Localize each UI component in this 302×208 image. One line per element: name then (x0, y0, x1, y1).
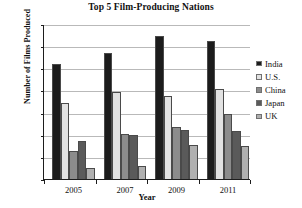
legend-label: Japan (265, 98, 285, 108)
legend-swatch-icon (256, 61, 262, 67)
legend-item-china[interactable]: China (256, 83, 302, 96)
legend-label: U.S. (265, 72, 280, 82)
legend-item-india[interactable]: India (256, 57, 302, 70)
gridline (44, 25, 250, 26)
bar-china-2011 (224, 114, 233, 180)
bar-us-2011 (215, 89, 224, 180)
gridline (44, 69, 250, 70)
legend-swatch-icon (256, 114, 262, 120)
bar-japan-2011 (232, 131, 241, 180)
legend-label: India (265, 59, 283, 69)
gridline (44, 47, 250, 48)
bar-japan-2007 (129, 135, 138, 180)
bar-china-2005 (69, 151, 78, 180)
legend-swatch-icon (256, 100, 262, 106)
bar-uk-2009 (189, 145, 198, 180)
legend-item-uk[interactable]: UK (256, 110, 302, 123)
legend-label: China (265, 85, 286, 95)
bar-china-2007 (121, 134, 130, 180)
y-axis-line (43, 25, 44, 180)
x-axis-title: Year (44, 192, 250, 202)
bar-us-2009 (164, 96, 173, 180)
x-tick-mark (147, 180, 148, 184)
bar-us-2007 (112, 92, 121, 180)
bar-india-2007 (104, 53, 113, 180)
x-tick-mark (96, 180, 97, 184)
legend: IndiaU.S.ChinaJapanUK (256, 57, 302, 123)
bar-india-2011 (207, 41, 216, 181)
bar-india-2005 (52, 64, 61, 180)
bar-uk-2007 (138, 166, 147, 180)
legend-swatch-icon (256, 74, 262, 80)
bar-japan-2009 (181, 130, 190, 180)
x-tick-mark (199, 180, 200, 184)
bar-india-2009 (155, 36, 164, 180)
x-tick-mark (44, 180, 45, 184)
y-axis-title: Number of Films Produced (23, 0, 32, 132)
bar-uk-2011 (241, 146, 250, 180)
bar-us-2005 (61, 103, 70, 181)
legend-item-us[interactable]: U.S. (256, 70, 302, 83)
plot-area: 02004006008001,0001,2001,400 20052007200… (44, 25, 250, 180)
x-tick-mark (250, 180, 251, 184)
legend-label: UK (265, 111, 277, 121)
bar-china-2009 (172, 127, 181, 180)
legend-item-japan[interactable]: Japan (256, 97, 302, 110)
bar-japan-2005 (78, 141, 87, 180)
bar-chart: Top 5 Film-Producing Nations Number of F… (0, 0, 302, 208)
chart-title: Top 5 Film-Producing Nations (0, 2, 302, 12)
legend-swatch-icon (256, 87, 262, 93)
